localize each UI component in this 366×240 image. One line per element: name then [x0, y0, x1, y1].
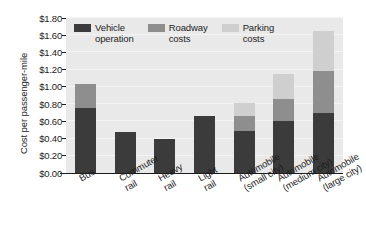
bar-segment-2 — [273, 74, 294, 99]
gridline — [66, 17, 343, 18]
chart-legend: Vehicle operationRoadway costsParking co… — [74, 22, 274, 44]
legend-label-0: Vehicle operation — [95, 22, 134, 44]
legend-swatch-1 — [148, 24, 165, 32]
bar-segment-1 — [313, 71, 334, 113]
legend-item-0[interactable]: Vehicle operation — [74, 22, 134, 44]
legend-swatch-0 — [74, 24, 91, 32]
y-axis-ticks: $0.00$0.20$0.40$0.60$0.80$1.00$1.20$1.40… — [0, 18, 66, 173]
legend-swatch-2 — [222, 24, 239, 32]
bar-0[interactable] — [75, 84, 96, 173]
bar-segment-2 — [313, 31, 334, 71]
legend-label-1: Roadway costs — [169, 22, 208, 44]
gridline — [66, 51, 343, 52]
bar-segment-2 — [234, 103, 255, 116]
x-axis-labels: BusCommuter railHeavy railLight railAuto… — [66, 174, 343, 240]
gridline — [66, 103, 343, 104]
bar-segment-1 — [273, 99, 294, 121]
bar-segment-1 — [234, 116, 255, 131]
legend-item-1[interactable]: Roadway costs — [148, 22, 208, 44]
bar-segment-0 — [75, 108, 96, 173]
gridline — [66, 69, 343, 70]
bar-segment-1 — [75, 84, 96, 107]
legend-label-2: Parking costs — [243, 22, 275, 44]
gridline — [66, 86, 343, 87]
bar-4[interactable] — [234, 103, 255, 173]
legend-item-2[interactable]: Parking costs — [222, 22, 275, 44]
